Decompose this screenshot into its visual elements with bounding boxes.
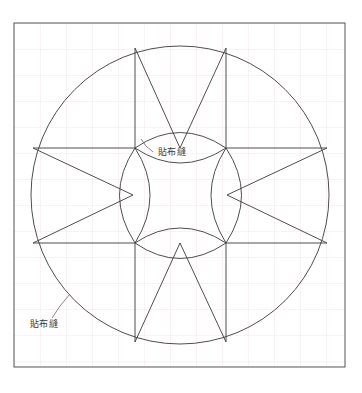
quilt-pattern-diagram: 貼布縫 貼布縫 bbox=[0, 0, 362, 393]
appliqué-label-outer: 貼布縫 bbox=[30, 318, 58, 329]
diagram-page: 貼布縫 貼布縫 bbox=[0, 0, 362, 393]
graph-grid-background bbox=[14, 23, 345, 367]
appliqué-label-center: 貼布縫 bbox=[158, 146, 186, 157]
